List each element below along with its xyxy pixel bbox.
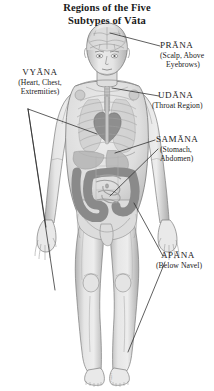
title-line-1: Regions of the Five bbox=[0, 2, 214, 15]
label-samana-detail-1: (Stomach, bbox=[160, 145, 214, 155]
label-prana-detail-1: (Scalp, Above bbox=[160, 51, 214, 61]
label-vyana-detail-2: Extremities) bbox=[2, 87, 78, 97]
illustration-canvas: Regions of the Five Subtypes of Vāta PRĀ… bbox=[0, 0, 214, 391]
left-knee bbox=[83, 274, 99, 292]
label-apana: APĀNA (Below Navel) bbox=[161, 251, 214, 270]
label-vyana-name: VYĀNA bbox=[2, 68, 78, 78]
label-samana: SAMĀNA (Stomach, Abdomen) bbox=[156, 135, 214, 164]
label-udana: UDĀNA (Throat Region) bbox=[158, 91, 214, 110]
title-line-2: Subtypes of Vāta bbox=[0, 15, 214, 28]
label-udana-detail-1: (Throat Region) bbox=[152, 101, 214, 111]
label-samana-detail-2: Abdomen) bbox=[160, 154, 214, 164]
label-vyana-detail-1: (Heart, Chest, bbox=[2, 78, 78, 88]
artist-credit: © jm.i.n bbox=[110, 373, 113, 382]
label-apana-detail-1: (Below Navel) bbox=[156, 261, 214, 271]
label-apana-name: APĀNA bbox=[161, 251, 214, 261]
label-prana: PRĀNA (Scalp, Above Eyebrows) bbox=[160, 41, 214, 70]
page-title: Regions of the Five Subtypes of Vāta bbox=[0, 2, 214, 27]
navel bbox=[105, 184, 108, 188]
label-udana-name: UDĀNA bbox=[158, 91, 214, 101]
label-vyana: VYĀNA (Heart, Chest, Extremities) bbox=[2, 68, 78, 97]
label-samana-name: SAMĀNA bbox=[156, 135, 214, 145]
label-prana-name: PRĀNA bbox=[160, 41, 214, 51]
sternum bbox=[105, 96, 108, 144]
left-foot bbox=[85, 368, 105, 385]
right-knee bbox=[115, 274, 131, 292]
label-prana-detail-2: Eyebrows) bbox=[160, 60, 214, 70]
